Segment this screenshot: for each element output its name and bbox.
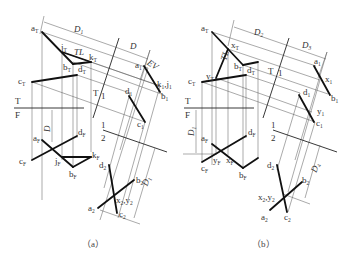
point-label: dT xyxy=(78,64,87,75)
point-label: d2 xyxy=(267,160,275,171)
dim-label-d: D xyxy=(129,41,137,51)
projector xyxy=(104,93,130,188)
point-label: a2 xyxy=(261,212,268,223)
point-label: a2 xyxy=(88,203,95,214)
fold-line-t1 xyxy=(93,38,119,118)
point-label: b1 xyxy=(331,93,339,104)
caption-a: （a） xyxy=(82,239,104,249)
projector xyxy=(277,93,300,170)
point-label: aT xyxy=(201,23,209,34)
point-label: aF xyxy=(33,133,40,144)
point-label: y1 xyxy=(317,106,325,117)
projector xyxy=(202,82,315,122)
projector xyxy=(295,52,327,160)
annotation-tl: TL xyxy=(74,47,84,57)
point-label: yF xyxy=(213,155,221,166)
fold-label-t: T xyxy=(93,88,99,98)
point-label: c2 xyxy=(284,212,291,223)
point-label: bT xyxy=(63,62,72,73)
edge-b-front xyxy=(243,158,258,168)
point-label: bF xyxy=(69,169,77,180)
point-label: cT xyxy=(188,76,196,87)
point-label: x2,y2 xyxy=(258,192,275,203)
point-label: bF xyxy=(239,170,247,181)
dimension-line xyxy=(44,22,118,48)
point-label: dF xyxy=(78,127,86,138)
edge-cd-front xyxy=(202,136,246,162)
fold-label-f: F xyxy=(15,110,20,120)
fold-label-f: F xyxy=(185,110,190,120)
caption-b: （b） xyxy=(252,239,275,249)
point-label: jF xyxy=(54,156,61,167)
point-label: x1 xyxy=(325,74,333,85)
point-label: a1 xyxy=(314,56,321,67)
panel-b: D2 D3 T 1 T F D1 1 2 D4 TL xyxy=(183,20,339,249)
point-label: c2 xyxy=(119,209,126,220)
dim-label-d2: D2 xyxy=(253,27,264,38)
edge-bk-front xyxy=(73,157,91,167)
dim-label-d4: D4 xyxy=(308,161,322,175)
fold-label-2: 2 xyxy=(101,133,106,143)
point-label: b1 xyxy=(161,91,169,102)
fold-label-2: 2 xyxy=(271,133,276,143)
dim-label-d1: D1 xyxy=(73,24,84,35)
fold-label-1: 1 xyxy=(278,68,283,78)
point-label: kT xyxy=(89,52,98,63)
fold-line-12 xyxy=(103,130,167,152)
point-label: b2 xyxy=(302,175,310,186)
point-label: jT xyxy=(60,42,68,53)
point-label: xF xyxy=(226,155,234,166)
edge-cd-top xyxy=(32,75,77,82)
point-label: c1 xyxy=(316,118,323,129)
edge-dc-view2 xyxy=(277,165,287,212)
edge-dc-view2 xyxy=(109,165,117,213)
fold-label-t: T xyxy=(15,96,21,106)
point-label: b2 xyxy=(136,175,144,186)
point-label: aF xyxy=(201,133,208,144)
fold-label-t: T xyxy=(185,96,191,106)
descriptive-geometry-figure: D1 D T 1 T F D 1 2 D1 xyxy=(0,0,350,260)
point-label: d2 xyxy=(99,160,107,171)
dim-label-d3: D3 xyxy=(301,40,312,51)
dim-label-d-front: D xyxy=(42,125,52,133)
edge-ab-top xyxy=(42,32,73,64)
dim-label-d1: D1 xyxy=(186,127,197,138)
projector xyxy=(246,75,300,93)
point-label: c1 xyxy=(137,119,144,130)
point-label: dT xyxy=(247,65,256,76)
fold-label-1: 1 xyxy=(271,120,276,130)
point-label: d1 xyxy=(125,86,133,97)
panel-a: D1 D T 1 T F D 1 2 D1 xyxy=(14,16,172,249)
point-label: a1 xyxy=(135,60,142,71)
point-label: yT xyxy=(206,71,215,82)
point-label: dF xyxy=(248,127,256,138)
point-label: cF xyxy=(201,163,208,174)
point-label: xT xyxy=(231,40,240,51)
point-label: k1,j1 xyxy=(157,79,172,90)
fold-label-t: T xyxy=(268,66,274,76)
fold-label-1: 1 xyxy=(101,91,106,101)
projector xyxy=(216,78,312,112)
point-label: x2,y2 xyxy=(116,195,133,206)
point-label: aT xyxy=(31,23,39,34)
point-label: cT xyxy=(18,76,26,87)
point-label: cF xyxy=(19,156,26,167)
point-label: d1 xyxy=(303,87,311,98)
fold-label-1: 1 xyxy=(101,120,106,130)
